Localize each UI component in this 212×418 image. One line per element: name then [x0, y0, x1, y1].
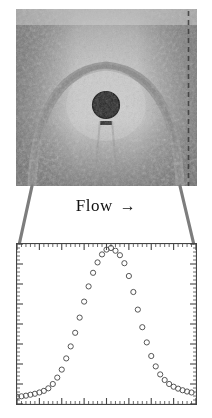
data-point: [68, 344, 73, 349]
flow-label-text: Flow: [76, 196, 113, 215]
bow-shock-figure: Flow→: [0, 0, 212, 418]
profile-scatter-plot: [16, 243, 197, 405]
data-point: [144, 340, 149, 345]
flow-arrow-icon: →: [120, 197, 137, 215]
data-point: [126, 273, 131, 278]
plot-canvas: [16, 243, 197, 405]
data-point: [50, 381, 55, 386]
data-point: [64, 356, 69, 361]
flow-label: Flow→: [0, 196, 212, 216]
data-points: [16, 245, 194, 399]
schlieren-photograph: [16, 9, 197, 186]
data-point: [99, 252, 104, 257]
data-point: [158, 372, 163, 377]
photograph-image: [16, 9, 197, 186]
data-point: [95, 260, 100, 265]
data-point: [162, 377, 167, 382]
data-point: [73, 330, 78, 335]
data-point: [59, 367, 64, 372]
data-point: [153, 364, 158, 369]
data-point: [86, 284, 91, 289]
data-point: [82, 299, 87, 304]
plot-frame: [17, 244, 197, 405]
data-point: [135, 307, 140, 312]
data-point: [131, 289, 136, 294]
data-point: [55, 375, 60, 380]
data-point: [149, 353, 154, 358]
data-point: [122, 261, 127, 266]
data-point: [117, 253, 122, 258]
data-point: [140, 325, 145, 330]
data-point: [77, 315, 82, 320]
data-point: [90, 270, 95, 275]
axis-ticks: [17, 244, 196, 404]
data-point: [113, 248, 118, 253]
data-point: [46, 386, 51, 391]
